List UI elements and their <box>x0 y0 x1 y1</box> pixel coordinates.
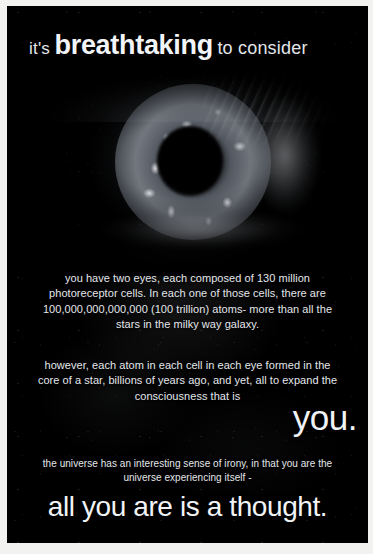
headline-trail: to consider <box>217 38 307 58</box>
final-line: all you are is a thought. <box>37 492 338 521</box>
headline-lead: it's <box>29 39 50 58</box>
poster-text-layer: it's breathtaking to consider you have t… <box>7 6 368 543</box>
paragraph-one: you have two eyes, each composed of 130 … <box>37 271 338 333</box>
headline: it's breathtaking to consider <box>29 32 308 59</box>
you-emphasis-line: you. <box>37 400 357 435</box>
paragraph-three: the universe has an interesting sense of… <box>37 457 338 485</box>
poster-frame: it's breathtaking to consider you have t… <box>0 0 373 554</box>
headline-emphasis: breathtaking <box>55 30 213 60</box>
poster-canvas: it's breathtaking to consider you have t… <box>7 6 368 543</box>
